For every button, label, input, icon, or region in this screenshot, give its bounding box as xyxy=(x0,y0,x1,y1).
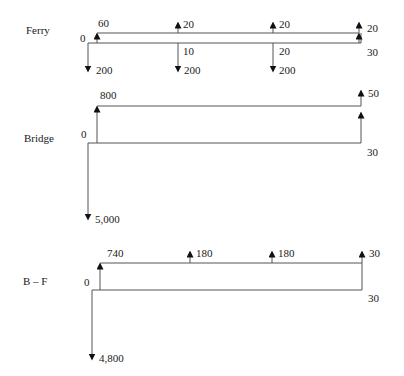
bf-receipt-label-10: 180 xyxy=(196,247,213,259)
ferry-receipt-label-30: 20 xyxy=(367,22,378,34)
bf-receipt-label-20: 180 xyxy=(278,247,295,259)
bridge-end-label: 30 xyxy=(367,146,378,158)
ferry-receipt-label-20: 20 xyxy=(279,18,290,30)
bf-title: B – F xyxy=(23,275,47,287)
ferry-start-label: 0 xyxy=(80,32,86,44)
ferry-diagram xyxy=(88,25,361,69)
ferry-cost-label-0: 200 xyxy=(96,64,113,76)
bf-receipt-label-0: 740 xyxy=(107,247,124,259)
bridge-title: Bridge xyxy=(24,132,54,144)
bf-end-label: 30 xyxy=(368,292,379,304)
bridge-receipt-label-0: 800 xyxy=(100,89,117,101)
ferry-cost-label-20: 200 xyxy=(279,64,296,76)
cash-flow-diagrams xyxy=(0,0,404,376)
bridge-cost-label-0: 5,000 xyxy=(95,213,120,225)
ferry-end-label: 30 xyxy=(367,46,378,58)
bf-diagram xyxy=(92,254,362,357)
ferry-cost-label-10: 200 xyxy=(184,64,201,76)
ferry-receipt-label-0: 60 xyxy=(98,17,109,29)
bridge-diagram xyxy=(88,93,361,217)
bf-receipt-label-30: 30 xyxy=(369,247,380,259)
ferry-receipt-label-10: 20 xyxy=(183,18,194,30)
ferry-mid-label-10: 10 xyxy=(183,45,194,57)
bf-cost-label-0: 4,800 xyxy=(99,352,124,364)
ferry-mid-label-20: 20 xyxy=(279,45,290,57)
bf-start-label: 0 xyxy=(84,276,90,288)
ferry-title: Ferry xyxy=(26,24,50,36)
bridge-receipt-label-30: 50 xyxy=(368,87,379,99)
bridge-start-label: 0 xyxy=(81,128,87,140)
